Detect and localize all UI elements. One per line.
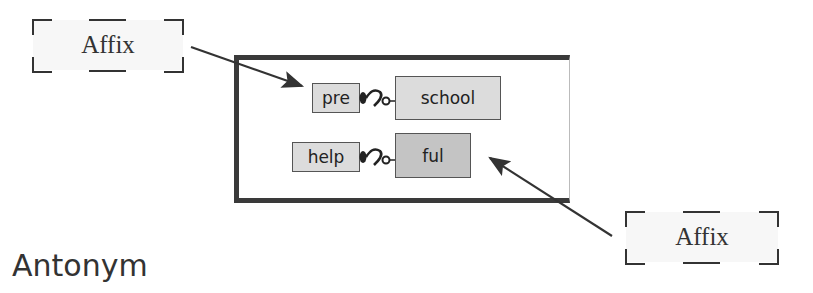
affix-label-bottom-text: Affix (626, 212, 778, 262)
bracket-corner (759, 249, 779, 265)
bracket-dash (683, 211, 720, 213)
bracket-corner (625, 211, 645, 227)
caption-antonym: Antonym (12, 248, 148, 283)
bracket-dash (683, 262, 720, 264)
arrow-top (191, 47, 302, 86)
bracket-corner (625, 249, 645, 265)
arrow-bottom (490, 158, 612, 236)
bracket-corner (759, 211, 779, 227)
